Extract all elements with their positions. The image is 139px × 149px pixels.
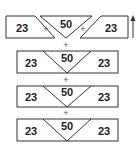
connector-plus: +	[63, 108, 68, 118]
row-2-right: 23	[98, 91, 110, 103]
top-left-value: 23	[16, 22, 28, 34]
connector-plus: +	[63, 40, 68, 50]
row-3-left: 23	[25, 125, 37, 137]
puzzle-diagram: 23 50 23 + + + + + 23 50 23 23 50 23 23 …	[0, 0, 139, 149]
row-2-left: 23	[25, 91, 37, 103]
row-3-right: 23	[98, 125, 110, 137]
arrow-head-icon	[131, 15, 136, 21]
plus-sign: +	[80, 24, 85, 34]
plus-sign: +	[43, 24, 48, 34]
top-right-value: 23	[105, 22, 117, 34]
top-middle-value: 50	[60, 18, 72, 30]
row-3-middle: 50	[61, 120, 73, 132]
row-2-middle: 50	[61, 86, 73, 98]
row-1-left: 23	[25, 57, 37, 69]
row-1-middle: 50	[61, 52, 73, 64]
connector-plus: +	[63, 75, 68, 85]
row-1-right: 23	[98, 57, 110, 69]
